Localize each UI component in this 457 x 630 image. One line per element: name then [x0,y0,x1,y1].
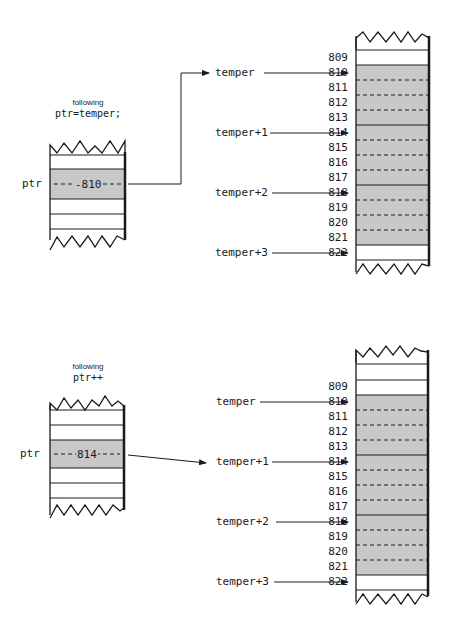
ptr-value-top: -810 [74,178,103,191]
ptr-label-bottom: ptr [20,448,40,460]
address-label: 820 [318,546,348,558]
address-label: 817 [318,501,348,513]
address-label: 822 [318,576,348,588]
ptr-memory-box-top [50,141,125,250]
pointer-label-temper3-top: temper+3 [215,247,268,259]
caption-following-top: following [38,98,138,107]
pointer-label-temper1-bottom: temper+1 [216,456,269,468]
address-label: 814 [318,127,348,139]
ptr-value-bottom: 814 [76,448,98,461]
address-label: 818 [318,516,348,528]
pointer-label-temper2-top: temper+2 [215,187,268,199]
address-label: 820 [318,217,348,229]
caption-code-top: ptr=temper; [38,108,138,119]
address-label: 812 [318,426,348,438]
address-label: 811 [318,82,348,94]
address-label: 813 [318,112,348,124]
temper-array-memory-top [356,32,429,274]
pointer-connector-bottom [128,455,206,463]
caption-code-bottom: ptr++ [38,372,138,383]
address-label: 816 [318,486,348,498]
address-label: 819 [318,531,348,543]
address-label: 809 [318,52,348,64]
pointer-label-temper-top: temper [215,67,255,79]
address-label: 811 [318,411,348,423]
caption-following-bottom: following [38,362,138,371]
address-label: 812 [318,97,348,109]
address-label: 810 [318,67,348,79]
ptr-label-top: ptr [22,178,42,190]
diagram-canvas [0,0,457,630]
pointer-label-temper1-top: temper+1 [215,127,268,139]
address-label: 813 [318,441,348,453]
address-label: 814 [318,456,348,468]
address-label: 815 [318,471,348,483]
pointer-label-temper2-bottom: temper+2 [216,516,269,528]
pointer-connector-top [128,73,209,184]
address-label: 821 [318,561,348,573]
address-label: 809 [318,381,348,393]
address-label: 810 [318,396,348,408]
temper-array-memory-bottom [356,346,428,604]
address-label: 818 [318,187,348,199]
pointer-label-temper3-bottom: temper+3 [216,576,269,588]
pointer-label-temper-bottom: temper [216,396,256,408]
address-label: 815 [318,142,348,154]
address-label: 816 [318,157,348,169]
address-label: 817 [318,172,348,184]
address-label: 819 [318,202,348,214]
address-label: 821 [318,232,348,244]
address-label: 822 [318,247,348,259]
